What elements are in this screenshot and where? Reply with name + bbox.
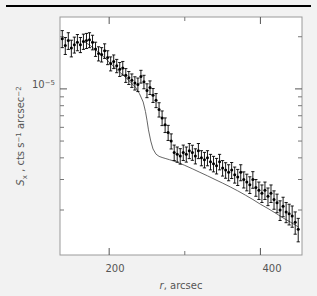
y-axis-exponent-1: −1: [15, 132, 23, 142]
y-tick-mantissa: 10: [32, 79, 45, 90]
x-tick-label-400: 400: [262, 263, 281, 274]
y-axis-mid-text-2: arcsec: [15, 97, 26, 133]
y-tick-exponent: −5: [45, 79, 55, 87]
x-tick-label-200: 200: [105, 263, 124, 274]
y-axis-label: Sx , cts s−1 arcsec−2: [15, 86, 29, 185]
x-axis-unit: , arcsec: [164, 280, 203, 291]
surface-brightness-plot: 10−5 200 400 r, arcsec Sx , cts s−1 arcs…: [0, 0, 317, 296]
y-tick-label-1e-5: 10−5: [32, 79, 55, 90]
x-axis-label: r, arcsec: [160, 280, 203, 291]
y-axis-exponent-2: −2: [15, 86, 23, 96]
plot-area-background: [60, 17, 302, 255]
figure-container: 10−5 200 400 r, arcsec Sx , cts s−1 arcs…: [0, 0, 317, 296]
y-axis-mid-text: , cts s: [15, 143, 26, 176]
